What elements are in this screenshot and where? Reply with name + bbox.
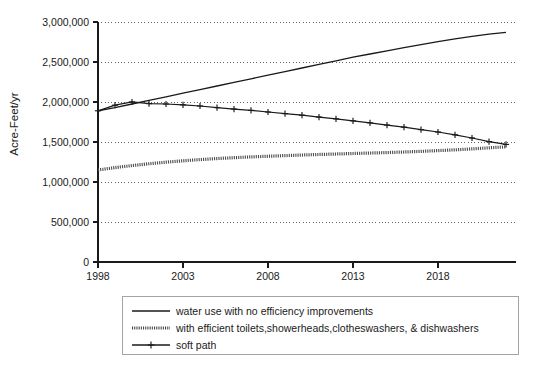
series-marker [452, 132, 458, 138]
data-series [95, 32, 509, 170]
series-marker [316, 114, 322, 120]
legend-label: soft path [176, 339, 216, 351]
series-marker [401, 124, 407, 130]
series-marker [486, 139, 492, 145]
series-marker [282, 111, 288, 117]
chart-legend: water use with no efficiency improvement… [122, 296, 518, 354]
legend-item[interactable]: with efficient toilets,showerheads,cloth… [132, 322, 479, 334]
gridlines [98, 22, 516, 222]
series-line-1 [98, 147, 506, 170]
chart-container: 0500,0001,000,0001,500,0002,000,0002,500… [0, 0, 544, 367]
series-marker [350, 118, 356, 124]
x-tick-label: 2003 [171, 270, 195, 282]
series-marker [384, 122, 390, 128]
series-marker [265, 109, 271, 115]
y-axis-ticks: 0500,0001,000,0001,500,0002,000,0002,500… [42, 16, 98, 268]
series-marker [418, 127, 424, 133]
y-tick-label: 2,500,000 [42, 56, 89, 68]
y-axis-title: Acre-Feet/yr [8, 92, 20, 155]
series-marker [180, 102, 186, 108]
series-marker [214, 105, 220, 111]
y-tick-label: 0 [83, 256, 89, 268]
legend-label: with efficient toilets,showerheads,cloth… [175, 322, 479, 334]
x-tick-label: 1998 [86, 270, 110, 282]
series-line-2 [98, 102, 506, 144]
series-marker [197, 103, 203, 109]
y-tick-label: 1,000,000 [42, 176, 89, 188]
series-line-0 [98, 32, 506, 110]
series-marker [435, 129, 441, 135]
y-tick-label: 500,000 [51, 216, 89, 228]
y-tick-label: 2,000,000 [42, 96, 89, 108]
x-tick-label: 2018 [426, 270, 450, 282]
series-marker [333, 116, 339, 122]
y-tick-label: 3,000,000 [42, 16, 89, 28]
y-tick-label: 1,500,000 [42, 136, 89, 148]
x-tick-label: 2013 [341, 270, 365, 282]
water-use-line-chart: 0500,0001,000,0001,500,0002,000,0002,500… [0, 0, 544, 367]
x-axis-ticks: 19982003200820132018 [86, 262, 450, 282]
series-marker [248, 107, 254, 113]
y-axis-label: Acre-Feet/yr [8, 92, 20, 155]
legend-label: water use with no efficiency improvement… [175, 305, 373, 317]
x-tick-label: 2008 [256, 270, 280, 282]
series-marker [367, 120, 373, 126]
series-marker [95, 108, 101, 114]
series-marker [299, 112, 305, 118]
series-marker [231, 106, 237, 112]
series-marker [469, 135, 475, 141]
